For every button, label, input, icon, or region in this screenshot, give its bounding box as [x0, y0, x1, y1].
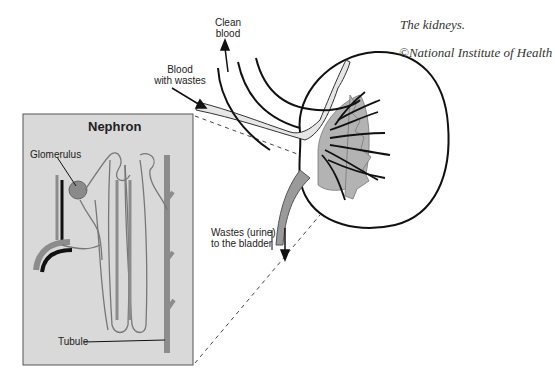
ureter — [276, 170, 310, 245]
tubule-label: Tubule — [58, 336, 88, 347]
figure-caption: The kidneys. — [400, 17, 465, 33]
figure-credit: ©National Institute of Health — [399, 45, 552, 61]
glomerulus-label: Glomerulus — [30, 149, 81, 160]
wastes-urine-label: Wastes (urine) to the bladder — [211, 227, 276, 249]
blood-with-wastes-label: Blood with wastes — [150, 64, 210, 86]
nephron-title: Nephron — [88, 119, 141, 134]
kidney-diagram: Clean blood Blood with wastes Wastes (ur… — [0, 0, 555, 388]
clean-blood-label: Clean blood — [208, 17, 248, 39]
